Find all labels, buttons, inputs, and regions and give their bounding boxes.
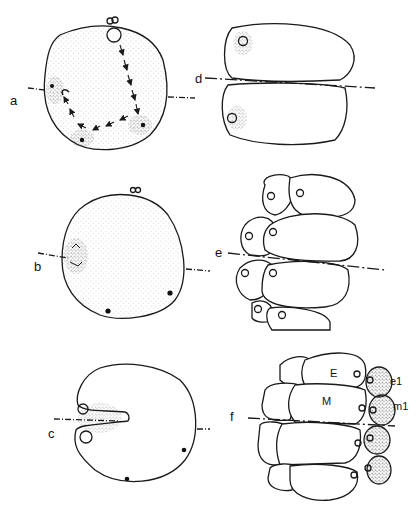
embryo-diagram [0,0,419,508]
panel-label-b: b [34,260,41,273]
panel-label-d: d [195,72,202,85]
panel-label-f: f [230,410,234,423]
panel-label-e: e [215,246,222,259]
panel-label-c: c [48,427,55,440]
panel-b-cell [38,188,210,319]
cell-label-E: E [330,368,337,379]
cell-label-m1: m1 [393,401,408,412]
panel-a-cell [28,17,195,150]
panel-f-cells [248,353,395,500]
cell-label-e1: e1 [390,376,402,387]
cell-label-M: M [322,396,331,407]
panel-c-cell [54,364,210,481]
panel-e-cells [228,175,385,330]
panel-label-a: a [10,94,17,107]
panel-d-cells [205,24,375,145]
